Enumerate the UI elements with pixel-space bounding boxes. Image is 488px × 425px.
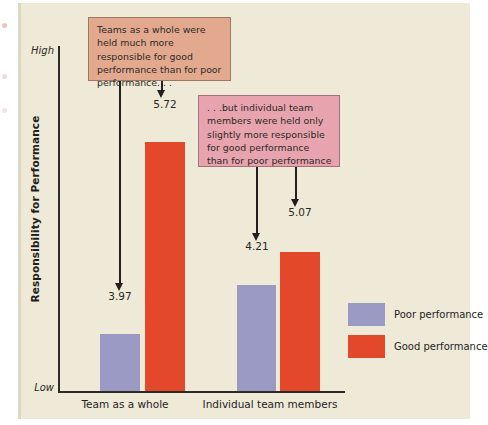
bar-team-poor[interactable]: [100, 334, 140, 391]
callout-teams-as-a-whole: Teams as a whole were held much more res…: [88, 17, 231, 81]
x-axis-category-team-as-a-whole: Team as a whole: [70, 398, 180, 410]
y-axis-low-label: Low: [8, 382, 54, 393]
bar-value-team-good: 5.72: [140, 98, 190, 110]
callout-individual-team-members: . . .but individual team members were he…: [198, 95, 340, 167]
callout-teams-arrow-to-good-head-icon: [157, 90, 165, 98]
bar-individual-poor[interactable]: [237, 285, 276, 391]
callout-individuals-arrow-to-good-head-icon: [291, 199, 299, 207]
y-axis-title: Responsibility for Performance: [29, 94, 41, 324]
callout-teams-arrow-to-poor-head-icon: [115, 283, 123, 291]
bar-value-team-poor: 3.97: [95, 290, 145, 302]
legend-item-good-performance[interactable]: Good performance: [348, 335, 488, 358]
y-axis-line: [58, 46, 60, 393]
bar-individual-good[interactable]: [280, 252, 320, 391]
x-axis-line: [58, 391, 345, 393]
legend-item-poor-performance[interactable]: Poor performance: [348, 303, 488, 326]
callout-individuals-arrow-to-poor-line: [256, 167, 258, 235]
y-axis-high-label: High: [8, 45, 54, 56]
legend-swatch-good-icon: [348, 335, 385, 358]
x-axis-category-individual-team-members: Individual team members: [190, 398, 350, 410]
legend-swatch-poor-icon: [348, 303, 385, 326]
bar-team-good[interactable]: [145, 142, 185, 391]
callout-individuals-arrow-to-good-line: [295, 167, 297, 201]
bar-value-individual-good: 5.07: [275, 206, 325, 218]
chart-legend: Poor performance Good performance: [348, 303, 488, 367]
legend-label-good-performance: Good performance: [394, 341, 488, 352]
bar-value-individual-poor: 4.21: [232, 240, 282, 252]
callout-individuals-arrow-to-poor-head-icon: [252, 233, 260, 241]
callout-teams-arrow-to-poor-line: [119, 81, 121, 285]
legend-label-poor-performance: Poor performance: [394, 309, 483, 320]
